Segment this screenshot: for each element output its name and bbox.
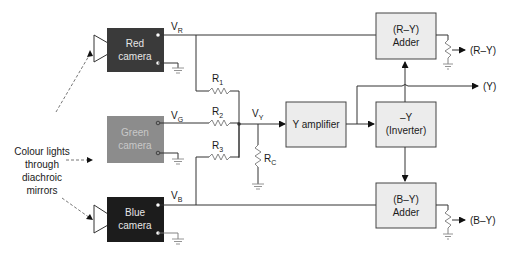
vb-label: VB: [171, 190, 183, 203]
resistor-rc-icon: [255, 145, 261, 167]
ground-icon: [172, 68, 184, 73]
light-label-line-2: through: [25, 159, 59, 170]
light-label-line-3: diachroic: [22, 172, 62, 183]
light-label-line-4: mirrors: [26, 185, 57, 196]
camera-matrix-diagram: Colour lights through diachroic mirrors …: [0, 0, 510, 261]
arrowhead-red-icon: [87, 50, 93, 57]
by-adder-block: [376, 183, 436, 228]
inverter-label-1: –Y: [400, 112, 413, 123]
vb-branch-r3: [196, 157, 209, 205]
ry-adder-block: [376, 13, 436, 59]
r3-label: R3: [212, 140, 223, 153]
by-adder-label-1: (B–Y): [393, 194, 419, 205]
ground-icon: [443, 234, 453, 239]
ry-out-wire: [436, 35, 448, 40]
red-camera: Red camera: [94, 28, 164, 72]
ry-output-label: (R–Y): [470, 45, 496, 56]
rc-label: RC: [264, 153, 276, 166]
resistor-r1-icon: [209, 88, 230, 94]
blue-camera-label-1: Blue: [125, 207, 145, 218]
dashed-arrow-blue: [62, 198, 90, 218]
resistor-r3-icon: [209, 154, 230, 160]
red-camera-body: [107, 28, 164, 72]
inverter-label-2: (Inverter): [386, 125, 427, 136]
arrowhead-blue-icon: [86, 214, 93, 220]
green-camera-text-1: Green: [121, 127, 149, 138]
ground-icon: [172, 239, 184, 244]
arrowhead-green-icon: [87, 157, 93, 163]
light-source-label: Colour lights through diachroic mirrors: [14, 146, 70, 196]
ground-icon: [172, 159, 184, 164]
red-camera-label-2: camera: [118, 51, 152, 62]
y-amplifier-label: Y amplifier: [292, 119, 340, 130]
by-output-label: (B–Y): [470, 215, 496, 226]
lens-icon: [94, 35, 108, 62]
terminal-icon: [156, 33, 159, 36]
potentiometer-by-icon: [445, 210, 451, 234]
y-output-label: (Y): [483, 81, 496, 92]
r1-label: R1: [212, 73, 223, 86]
by-adder-label-2: Adder: [393, 207, 420, 218]
terminal-icon: [156, 151, 160, 155]
by-out-wire: [436, 205, 448, 210]
r2-label: R2: [212, 106, 223, 119]
red-camera-label-1: Red: [126, 38, 144, 49]
ry-adder-label-2: Adder: [393, 37, 420, 48]
dashed-arrow-red: [56, 54, 90, 112]
green-camera-text-2: camera: [118, 140, 152, 151]
terminal-icon: [156, 203, 159, 206]
light-label-line-1: Colour lights: [14, 146, 70, 157]
terminal-icon: [156, 121, 160, 125]
resistor-r2-icon: [209, 120, 230, 126]
ry-adder-label-1: (R–Y): [393, 24, 419, 35]
lens-icon: [94, 205, 108, 233]
potentiometer-ry-icon: [445, 40, 451, 64]
blue-camera-label-2: camera: [118, 220, 152, 231]
blue-camera: Blue camera: [94, 197, 164, 242]
vr-label: VR: [171, 21, 183, 34]
r3-to-node: [230, 123, 239, 157]
ground-icon: [443, 64, 453, 69]
vg-label: VG: [171, 110, 183, 123]
vr-branch-r1: [196, 35, 209, 91]
vy-label: VY: [252, 108, 264, 121]
ground-icon: [252, 184, 264, 189]
